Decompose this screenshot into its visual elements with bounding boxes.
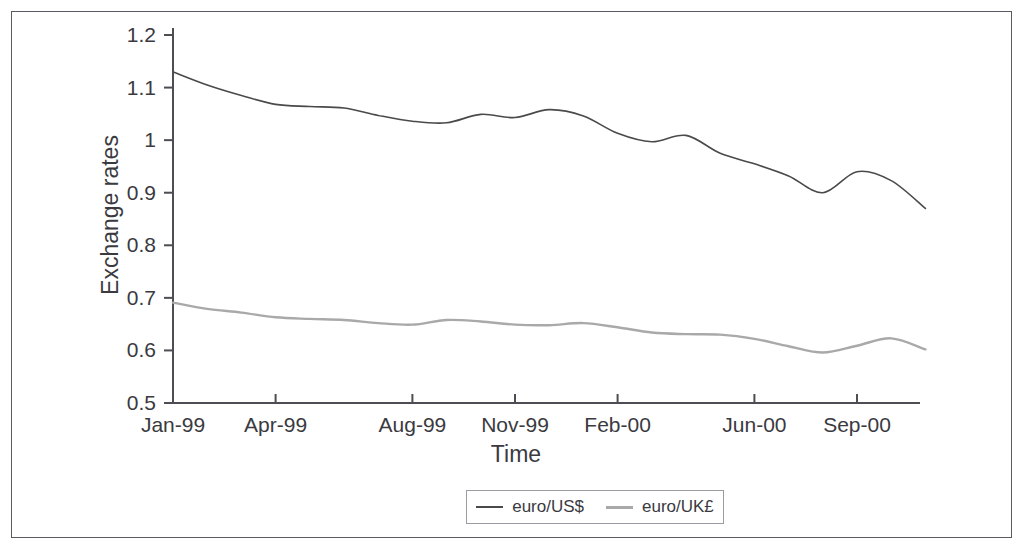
x-tick-label: Aug-99 <box>379 413 447 436</box>
x-axis-tick-labels: Jan-99Apr-99Aug-99Nov-99Feb-00Jun-00Sep-… <box>141 413 891 436</box>
series-line-euro-usd <box>173 72 925 209</box>
x-tick-label: Sep-00 <box>823 413 891 436</box>
y-axis-title: Exchange rates <box>97 135 123 295</box>
legend-item-euro-gbp: euro/UK£ <box>606 497 714 517</box>
x-axis-title: Time <box>491 441 541 467</box>
x-axis-ticks <box>173 394 857 403</box>
chart-legend: euro/US$ euro/UK£ <box>466 490 724 524</box>
y-tick-label: 0.9 <box>127 181 156 204</box>
legend-swatch-euro-gbp-icon <box>606 506 633 509</box>
x-tick-label: Apr-99 <box>244 413 307 436</box>
chart-figure: 0.50.60.70.80.911.11.2 Jan-99Apr-99Aug-9… <box>0 0 1025 548</box>
y-axis-ticks <box>164 35 173 403</box>
y-axis-tick-labels: 0.50.60.70.80.911.11.2 <box>127 23 156 414</box>
y-tick-label: 0.6 <box>127 338 156 361</box>
y-tick-label: 1.1 <box>127 76 156 99</box>
legend-item-euro-usd: euro/US$ <box>476 497 584 517</box>
y-tick-label: 0.8 <box>127 233 156 256</box>
y-tick-label: 1 <box>144 128 156 151</box>
y-tick-label: 1.2 <box>127 23 156 46</box>
legend-label-euro-usd: euro/US$ <box>512 497 584 517</box>
legend-label-euro-gbp: euro/UK£ <box>642 497 714 517</box>
x-tick-label: Feb-00 <box>584 413 651 436</box>
x-tick-label: Jan-99 <box>141 413 205 436</box>
y-tick-label: 0.7 <box>127 286 156 309</box>
y-tick-label: 0.5 <box>127 391 156 414</box>
legend-swatch-euro-usd-icon <box>476 506 503 508</box>
x-tick-label: Nov-99 <box>481 413 549 436</box>
series-line-euro-gbp <box>173 303 925 353</box>
x-tick-label: Jun-00 <box>722 413 786 436</box>
line-chart-plot: 0.50.60.70.80.911.11.2 Jan-99Apr-99Aug-9… <box>0 0 1025 548</box>
